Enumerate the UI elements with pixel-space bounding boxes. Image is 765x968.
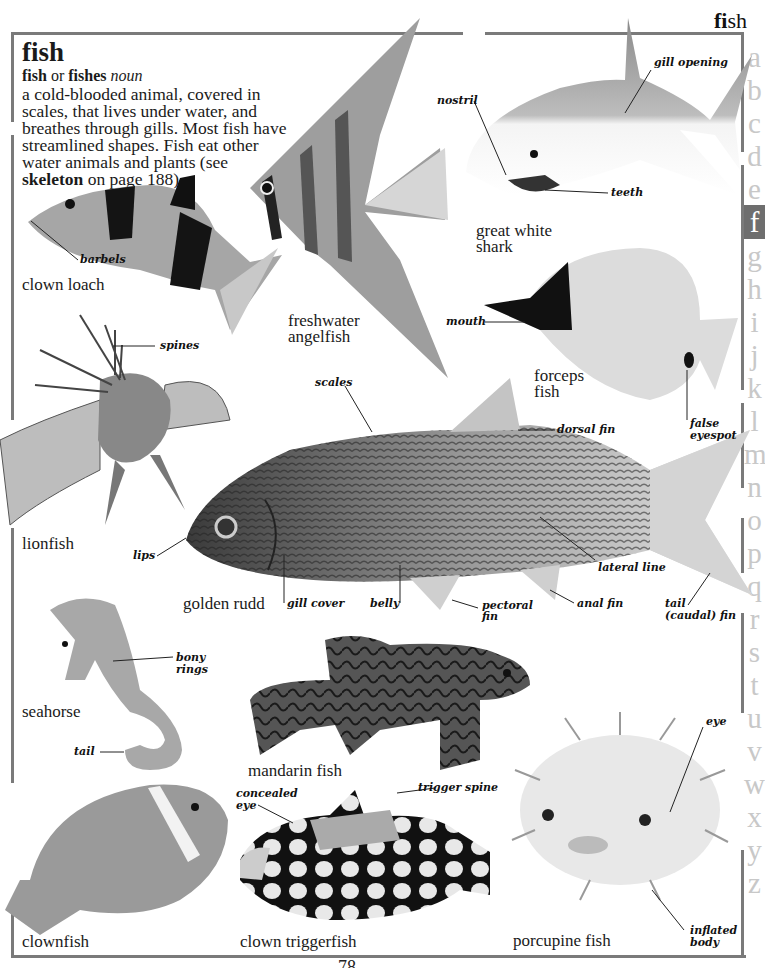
label-teeth: teeth: [611, 187, 643, 199]
label-dorsal-fin: dorsal fin: [557, 424, 615, 436]
porcupine-fish-illustration: [512, 712, 728, 900]
mandarin-fish-illustration: [250, 636, 530, 770]
label-gill-opening: gill opening: [654, 57, 728, 69]
page-number: 78: [338, 957, 356, 968]
label-lateral-line: lateral line: [598, 562, 666, 574]
label-barbels: barbels: [80, 254, 126, 266]
golden-rudd-illustration: [186, 378, 752, 610]
caption-golden-rudd: golden rudd: [183, 595, 265, 612]
caption-porcupine-fish: porcupine fish: [513, 932, 611, 949]
label-nostril: nostril: [437, 95, 478, 107]
caption-clown-triggerfish: clown triggerfish: [240, 933, 357, 950]
label-gill-cover: gill cover: [287, 598, 344, 610]
caption-clownfish: clownfish: [22, 933, 89, 950]
label-caudal-fin: (caudal) fin: [665, 610, 736, 622]
caption-angelfish-line2: angelfish: [288, 328, 350, 345]
label-rings: rings: [176, 664, 208, 676]
caption-seahorse: seahorse: [22, 703, 81, 720]
label-scales: scales: [315, 377, 352, 389]
label-eye: eye: [236, 800, 256, 812]
caption-forceps-line2: fish: [534, 383, 560, 400]
label-porcupine-eye: eye: [706, 716, 726, 728]
label-fin: fin: [482, 611, 498, 623]
label-mouth: mouth: [446, 316, 486, 328]
label-spines: spines: [160, 340, 199, 352]
illustrations-layer: [0, 0, 765, 968]
caption-lionfish: lionfish: [22, 535, 74, 552]
label-eyespot: eyespot: [690, 430, 737, 442]
clown-loach-illustration: [28, 175, 282, 335]
caption-clown-loach: clown loach: [22, 276, 105, 293]
label-lips: lips: [133, 550, 155, 562]
forceps-fish-illustration: [484, 248, 738, 400]
clownfish-illustration: [5, 784, 228, 935]
seahorse-illustration: [50, 599, 182, 770]
clown-triggerfish-illustration: [240, 790, 490, 920]
label-body: body: [690, 937, 719, 949]
label-seahorse-tail: tail: [74, 746, 95, 758]
caption-shark-line2: shark: [476, 238, 513, 255]
label-anal-fin: anal fin: [577, 598, 623, 610]
caption-mandarin-fish: mandarin fish: [248, 762, 342, 779]
label-belly: belly: [370, 598, 399, 610]
label-trigger-spine: trigger spine: [418, 782, 498, 794]
shark-illustration: [466, 18, 752, 195]
